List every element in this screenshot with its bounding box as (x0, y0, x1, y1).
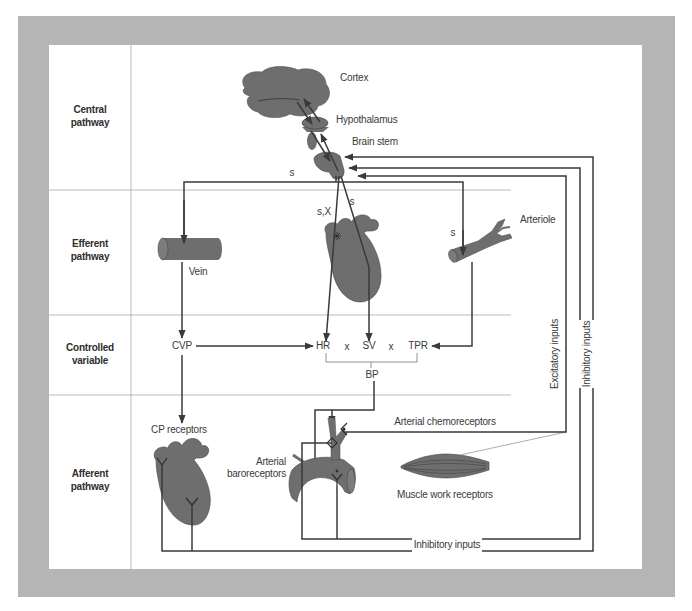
row-label-central-line1: Central (71, 105, 110, 115)
baroreceptors-label-line2: baroreceptors (227, 469, 286, 479)
row-label-controlled-line1: Controlled (66, 343, 114, 353)
sympathetic-label: s (290, 168, 295, 178)
cortex-icon (243, 67, 330, 118)
excitatory-inputs-label: Excitatory inputs (550, 319, 560, 389)
multiply-sign-2: x (389, 342, 394, 352)
vein-icon (158, 238, 222, 260)
sv-label: SV (363, 341, 376, 351)
brain-stem-label: Brain stem (352, 137, 398, 147)
row-label-efferent-line1: Efferent (71, 239, 110, 249)
inhibitory-inputs-label: Inhibitory inputs (582, 321, 592, 388)
vein-label: Vein (189, 267, 208, 277)
sv-nerve-label: s (350, 197, 355, 207)
row-label-controlled: Controlled variable (66, 343, 114, 366)
baroreceptors-label-line1: Arterial (256, 457, 286, 467)
row-label-central: Central pathway (71, 105, 110, 128)
hr-nerve-label: s,X (317, 207, 331, 217)
row-label-afferent-line2: pathway (71, 482, 110, 492)
hr-label: HR (316, 341, 330, 351)
bp-label: BP (366, 370, 379, 380)
row-label-central-line2: pathway (71, 118, 110, 128)
diagram-graphics (0, 0, 692, 611)
row-label-controlled-line2: variable (66, 356, 114, 366)
row-label-efferent: Efferent pathway (71, 239, 110, 262)
hypothalamus-label: Hypothalamus (336, 115, 398, 125)
multiply-sign-1: x (345, 342, 350, 352)
arteriole-nerve-label: s (451, 228, 456, 238)
cvp-label: CVP (172, 341, 192, 351)
cortex-label: Cortex (340, 73, 368, 83)
row-label-efferent-line2: pathway (71, 252, 110, 262)
inhibitory-inputs-bottom-label: Inhibitory inputs (414, 540, 481, 550)
cp-receptors-label: CP receptors (151, 425, 207, 435)
arteriole-label: Arteriole (520, 215, 555, 225)
row-label-afferent: Afferent pathway (71, 469, 110, 492)
tpr-label: TPR (408, 341, 427, 351)
row-label-afferent-line1: Afferent (71, 469, 110, 479)
chemoreceptors-label: Arterial chemoreceptors (394, 417, 496, 427)
cardiovascular-control-diagram: Central pathway Efferent pathway Control… (0, 0, 692, 611)
muscle-receptors-label: Muscle work receptors (397, 490, 493, 500)
